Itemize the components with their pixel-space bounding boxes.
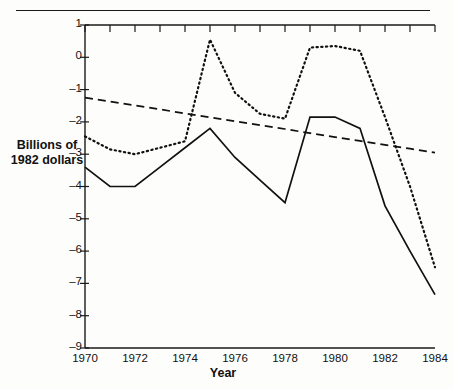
y-tick-label: –9 — [56, 340, 82, 352]
y-tick-label: –2 — [56, 114, 82, 126]
y-tick-label-group: 10–1–2–3–4–5–6–7–8–9 — [52, 0, 82, 389]
x-tick-label: 1974 — [165, 352, 205, 364]
y-tick-label: 0 — [56, 49, 82, 61]
x-tick-label: 1970 — [65, 352, 105, 364]
y-tick-label: –5 — [56, 211, 82, 223]
x-tick-label: 1980 — [315, 352, 355, 364]
x-axis-title: Year — [193, 366, 253, 380]
y-tick-label: –8 — [56, 308, 82, 320]
series-dotted-series — [85, 40, 435, 268]
y-tick-label: –4 — [56, 179, 82, 191]
x-tick-label: 1984 — [415, 352, 453, 364]
y-tick-label: –1 — [56, 82, 82, 94]
y-tick-label: –6 — [56, 243, 82, 255]
y-tick-label: –7 — [56, 275, 82, 287]
series-dashed-trend — [85, 98, 435, 153]
y-tick-label: –3 — [56, 146, 82, 158]
x-tick-label: 1982 — [365, 352, 405, 364]
x-tick-label: 1978 — [265, 352, 305, 364]
x-tick-label: 1972 — [115, 352, 155, 364]
y-tick-label: 1 — [56, 17, 82, 29]
x-tick-label: 1976 — [215, 352, 255, 364]
